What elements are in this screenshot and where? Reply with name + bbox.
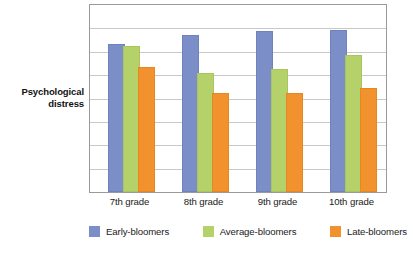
x-tick-label: 10th grade	[312, 196, 392, 207]
x-axis-tick-labels: 7th grade8th grade9th grade10th grade	[89, 196, 387, 212]
bar-late-bloomers-9th-grade[interactable]	[286, 93, 303, 192]
bar-late-bloomers-7th-grade[interactable]	[138, 67, 155, 192]
chart-legend: Early-bloomersAverage-bloomersLate-bloom…	[89, 222, 407, 240]
legend-label: Late-bloomers	[347, 226, 407, 237]
y-axis-label: Psychological distress	[8, 86, 84, 109]
bar-group	[312, 5, 386, 192]
y-axis-label-line-2: distress	[48, 98, 84, 109]
legend-swatch-icon	[89, 226, 100, 237]
bar-group	[90, 5, 164, 192]
bar-late-bloomers-8th-grade[interactable]	[212, 93, 229, 192]
legend-item-average-bloomers[interactable]: Average-bloomers	[203, 226, 297, 237]
legend-swatch-icon	[330, 226, 341, 237]
legend-swatch-icon	[203, 226, 214, 237]
legend-label: Average-bloomers	[220, 226, 297, 237]
x-tick-label: 9th grade	[238, 196, 318, 207]
bar-chart-figure: Psychological distress 7th grade8th grad…	[0, 0, 413, 254]
legend-item-early-bloomers[interactable]: Early-bloomers	[89, 226, 169, 237]
legend-item-late-bloomers[interactable]: Late-bloomers	[330, 226, 407, 237]
plot-area	[89, 4, 387, 193]
legend-label: Early-bloomers	[106, 226, 169, 237]
bars-layer	[90, 5, 386, 192]
x-tick-label: 8th grade	[164, 196, 244, 207]
bar-group	[164, 5, 238, 192]
y-axis-label-line-1: Psychological	[21, 86, 84, 97]
bar-late-bloomers-10th-grade[interactable]	[360, 88, 377, 192]
x-tick-label: 7th grade	[90, 196, 170, 207]
bar-group	[238, 5, 312, 192]
